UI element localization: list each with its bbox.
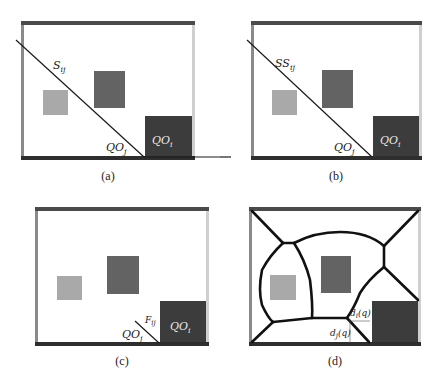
panel-c-medium-obstacle — [107, 256, 139, 294]
panel-a-qoi-label: QOi — [152, 134, 173, 149]
panel-c-top-wall — [35, 207, 209, 211]
panel-c-caption: (c) — [115, 354, 128, 368]
panel-b-medium-obstacle — [322, 70, 353, 108]
panel-b-qoj-label: QOj — [334, 141, 355, 156]
panel-c-qoj-label: QOj — [122, 328, 143, 343]
panel-c-left-wall — [35, 208, 38, 345]
panel-b: SSij QOj QOi (b) — [220, 21, 422, 183]
panel-b-qoi-label: QOi — [380, 134, 401, 149]
panel-d-bottom-wall — [249, 342, 421, 346]
panel-c-light-obstacle — [57, 276, 82, 300]
panel-a-qoj-label: QOj — [106, 141, 127, 156]
panel-b-light-obstacle — [272, 90, 297, 115]
panel-d-medium-obstacle — [321, 256, 351, 293]
panel-a-right-wall — [192, 22, 195, 159]
panel-d-right-wall — [418, 208, 421, 345]
panel-b-right-wall — [419, 22, 422, 159]
panel-d-left-wall — [249, 208, 252, 345]
panel-d: di(q) dj(q) (d) — [249, 207, 421, 368]
panel-b-top-wall — [251, 21, 422, 25]
panel-b-left-wall — [251, 22, 254, 159]
panel-b-caption: (b) — [329, 169, 343, 183]
panel-d-light-obstacle — [270, 275, 296, 300]
panel-a: Sij QOj QOi (a) — [16, 21, 220, 183]
panel-c: Fij QOj QOi (c) — [35, 207, 209, 368]
panel-a-light-obstacle — [43, 90, 68, 115]
panel-d-caption: (d) — [328, 354, 342, 368]
panel-a-top-wall — [21, 21, 195, 25]
panel-c-qoi-label: QOi — [170, 320, 191, 335]
diagram-canvas: Sij QOj QOi (a) SSij QOj QOi (b) Fij QOj… — [0, 0, 441, 383]
panel-a-medium-obstacle — [94, 71, 125, 108]
panel-d-qoi-obstacle — [372, 301, 418, 344]
panel-d-top-wall — [249, 207, 421, 211]
panel-c-right-wall — [206, 208, 209, 345]
panel-a-left-wall — [21, 22, 24, 159]
panel-c-bottom-wall — [35, 342, 209, 346]
panel-a-caption: (a) — [101, 169, 114, 183]
panel-b-bottom-wall — [251, 156, 422, 160]
